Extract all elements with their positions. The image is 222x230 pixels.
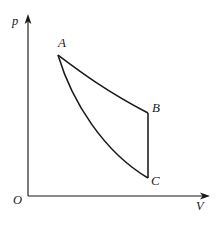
point-label-b: B [152,101,160,114]
point-label-a: A [58,36,66,49]
origin-label: O [13,194,22,207]
pv-diagram-figure: p V O A B C [0,0,222,230]
pressure-axis-label: p [12,15,18,28]
point-label-c: C [151,174,160,187]
pv-diagram-canvas [0,0,222,230]
curve-a-to-c [58,55,148,178]
curve-a-to-b [58,55,148,113]
volume-axis-label: V [196,200,204,213]
